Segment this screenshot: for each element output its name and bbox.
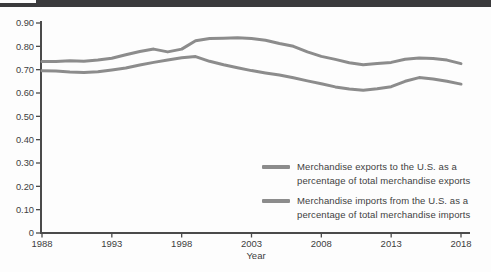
legend-label-exports-line1: Merchandise exports to the U.S. as a [297, 160, 470, 174]
exports-line [42, 38, 461, 65]
legend-label-imports-line2: percentage of total merchandise imports [297, 208, 470, 222]
x-tick-label: 1998 [171, 238, 192, 249]
legend-label-imports-line1: Merchandise imports from the U.S. as a [297, 194, 470, 208]
x-axis-title: Year [246, 250, 265, 261]
legend-label-exports: Merchandise exports to the U.S. as a per… [297, 160, 470, 187]
legend-swatch-exports-line [262, 165, 290, 169]
y-tick-label: 0.30 [16, 158, 34, 168]
y-tick-label: 0.20 [16, 182, 34, 192]
x-tick-label: 2013 [381, 238, 402, 249]
x-tick-label: 2003 [241, 238, 262, 249]
legend-item-exports: Merchandise exports to the U.S. as a per… [262, 160, 480, 187]
x-tick-label: 1988 [31, 238, 52, 249]
x-tick-label: 1993 [101, 238, 122, 249]
y-tick-label: 0.80 [16, 42, 34, 52]
legend-item-imports: Merchandise imports from the U.S. as a p… [262, 194, 480, 221]
x-tick-label: 2008 [311, 238, 332, 249]
line-chart: 00.100.200.300.400.500.600.700.800.90198… [0, 0, 491, 272]
y-tick-label: 0.10 [16, 205, 34, 215]
x-tick-label: 2018 [450, 238, 471, 249]
y-tick-label: 0.70 [16, 65, 34, 75]
chart-legend: Merchandise exports to the U.S. as a per… [262, 160, 480, 228]
legend-label-imports: Merchandise imports from the U.S. as a p… [297, 194, 470, 221]
y-tick-label: 0.90 [16, 18, 34, 28]
legend-swatch-imports-line [262, 199, 290, 203]
y-tick-label: 0.60 [16, 88, 34, 98]
y-tick-label: 0.40 [16, 135, 34, 145]
y-tick-label: 0 [29, 228, 34, 238]
y-tick-label: 0.50 [16, 112, 34, 122]
legend-label-exports-line2: percentage of total merchandise exports [297, 174, 470, 188]
